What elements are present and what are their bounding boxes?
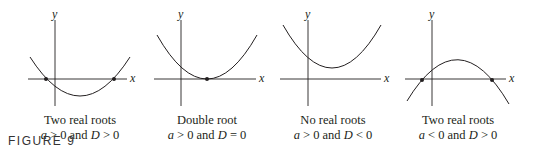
panel-1-title: Two real roots <box>20 113 140 128</box>
x-axis-label: x <box>258 71 265 85</box>
panel-3-condition: a > 0 and D < 0 <box>273 128 393 143</box>
parabola-curve <box>30 57 130 96</box>
panel-4-condition: a < 0 and D > 0 <box>398 128 518 143</box>
panel-1-graph: x y <box>28 7 136 106</box>
y-axis-label: y <box>51 7 58 21</box>
root-point <box>44 77 48 81</box>
x-axis-label: x <box>383 71 390 85</box>
double-root-point <box>205 77 209 81</box>
root-point <box>490 78 494 82</box>
panel-4-graph: x y <box>405 7 515 106</box>
panel-4-caption: Two real roots a < 0 and D > 0 <box>398 113 518 143</box>
panel-3-caption: No real roots a > 0 and D < 0 <box>273 113 393 143</box>
panel-2-caption: Double root a > 0 and D = 0 <box>147 113 267 143</box>
panel-4-title: Two real roots <box>398 113 518 128</box>
parabola-curve <box>157 35 257 79</box>
panel-2-title: Double root <box>147 113 267 128</box>
panel-3-graph: x y <box>280 7 390 106</box>
parabola-curve <box>283 25 381 68</box>
panel-3-title: No real roots <box>273 113 393 128</box>
panel-2-condition: a > 0 and D = 0 <box>147 128 267 143</box>
root-point <box>112 77 116 81</box>
root-point <box>420 78 424 82</box>
x-axis-label: x <box>508 71 515 85</box>
y-axis-label: y <box>304 7 311 21</box>
panel-2-graph: x y <box>154 7 265 106</box>
x-axis-label: x <box>129 71 136 85</box>
figure-label: FIGURE 9 <box>8 134 75 148</box>
y-axis-label: y <box>177 7 184 21</box>
y-axis-label: y <box>428 7 435 21</box>
